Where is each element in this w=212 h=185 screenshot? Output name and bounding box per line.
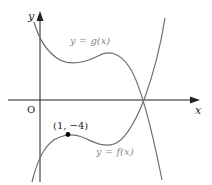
point-marker <box>66 132 71 137</box>
graph-diagram: y x O y = g(x) y = f(x) (1, −4) <box>0 0 212 185</box>
origin-label: O <box>27 104 35 115</box>
x-axis-label: x <box>195 104 202 117</box>
y-axis-arrow-icon <box>37 11 44 21</box>
y-axis-label: y <box>27 10 35 23</box>
curve-f-label: y = f(x) <box>95 146 134 157</box>
x-axis-arrow-icon <box>190 97 200 104</box>
curve-g-label: y = g(x) <box>69 35 110 46</box>
point-label: (1, −4) <box>53 120 88 131</box>
